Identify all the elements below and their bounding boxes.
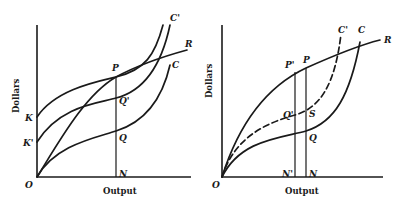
right-label-Q: Q (309, 133, 317, 143)
left-curve-C-prime (37, 25, 163, 117)
left-panel: O K K' P Q' Q N R C C' Output Dollars (11, 13, 193, 196)
left-label-K-prime: K' (22, 138, 34, 148)
right-label-C: C (358, 25, 366, 35)
left-label-N: N (118, 169, 128, 179)
left-y-axis-title: Dollars (11, 79, 21, 113)
left-label-R: R (184, 39, 193, 49)
right-panel: O P' P Q' S Q N' N R C C' Output Dollars (204, 25, 392, 196)
left-label-Q: Q (119, 133, 127, 143)
left-label-C: C (172, 60, 180, 70)
left-label-C-prime: C' (170, 13, 180, 23)
left-x-axis-title: Output (103, 186, 137, 196)
right-x-axis-title: Output (285, 186, 319, 196)
figure: O K K' P Q' Q N R C C' Output Dollars O … (0, 0, 398, 206)
right-label-C-prime: C' (338, 25, 348, 35)
right-label-S: S (309, 109, 316, 119)
right-label-N: N (308, 169, 318, 179)
right-label-Q-prime: Q' (283, 110, 294, 120)
left-label-O: O (25, 180, 33, 190)
left-label-K: K (24, 113, 34, 123)
left-label-P: P (111, 63, 119, 73)
left-curve-K-prime (37, 25, 170, 142)
right-label-O: O (212, 180, 220, 190)
right-label-P: P (302, 55, 310, 65)
left-label-Q-prime: Q' (119, 96, 130, 106)
right-label-R: R (383, 35, 392, 45)
right-y-axis-title: Dollars (204, 64, 214, 98)
right-label-N-prime: N' (281, 169, 293, 179)
right-label-P-prime: P' (284, 60, 295, 70)
